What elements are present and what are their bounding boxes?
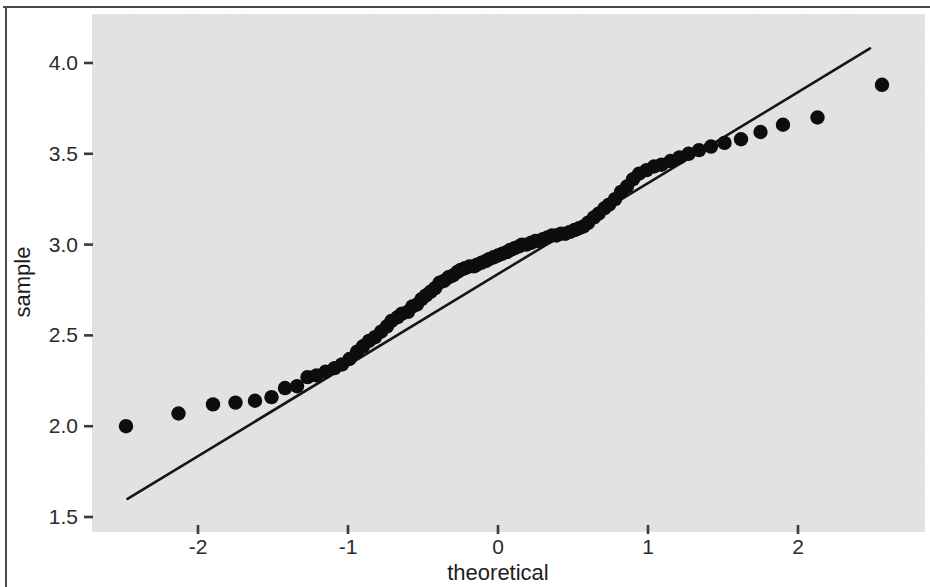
x-tick-label: -2 <box>189 535 208 558</box>
data-point <box>776 118 790 132</box>
x-tick-label: 2 <box>792 535 804 558</box>
y-tick-label: 3.0 <box>49 233 78 256</box>
data-point <box>810 110 824 124</box>
y-tick-label: 2.0 <box>49 414 78 437</box>
y-tick-label: 2.5 <box>49 323 78 346</box>
x-axis-title: theoretical <box>447 560 549 585</box>
data-point <box>704 139 718 153</box>
data-point <box>171 406 185 420</box>
qq-plot-figure: 1.52.02.53.03.54.0 -2-1012 theoretical s… <box>0 0 930 587</box>
plot-canvas: 1.52.02.53.03.54.0 -2-1012 theoretical s… <box>0 0 930 587</box>
data-point <box>228 395 242 409</box>
data-point <box>248 394 262 408</box>
data-point <box>875 78 889 92</box>
y-tick-label: 1.5 <box>49 505 78 528</box>
data-point <box>206 397 220 411</box>
x-tick-label: 1 <box>642 535 654 558</box>
data-point <box>717 136 731 150</box>
x-tick-label: -1 <box>339 535 358 558</box>
data-point <box>753 125 767 139</box>
x-tick-label: 0 <box>492 535 504 558</box>
y-tick-label: 4.0 <box>49 51 78 74</box>
data-point <box>119 419 133 433</box>
y-tick-label: 3.5 <box>49 142 78 165</box>
y-axis-ticks: 1.52.02.53.03.54.0 <box>49 51 93 528</box>
y-axis-title: sample <box>10 247 35 318</box>
data-point <box>734 132 748 146</box>
data-point <box>264 390 278 404</box>
